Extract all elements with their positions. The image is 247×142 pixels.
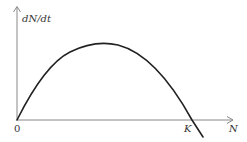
- origin-label: 0: [14, 124, 20, 134]
- y-axis-label: dN/dt: [22, 14, 51, 24]
- k-tick-label: K: [184, 124, 191, 134]
- x-axis-label: N: [229, 124, 238, 134]
- growth-rate-curve: [17, 43, 203, 137]
